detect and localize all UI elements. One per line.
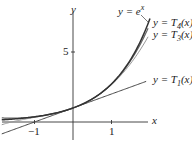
label-t3: y = T3(x) xyxy=(153,28,192,43)
curve-exp xyxy=(2,19,150,120)
taylor-polynomial-chart: y x −1 1 5 y = ex y = T4(x) y = T3(x) y … xyxy=(0,0,192,146)
curve-t3 xyxy=(2,37,148,125)
x-tick-neg1: −1 xyxy=(28,125,40,137)
y-tick-5: 5 xyxy=(63,45,69,57)
curve-t4 xyxy=(2,28,148,118)
y-axis-label: y xyxy=(71,3,76,15)
x-axis-label: x xyxy=(152,114,157,126)
label-exp: y = ex xyxy=(118,3,144,17)
label-t1: y = T1(x) xyxy=(153,73,192,88)
x-tick-1: 1 xyxy=(109,125,115,137)
